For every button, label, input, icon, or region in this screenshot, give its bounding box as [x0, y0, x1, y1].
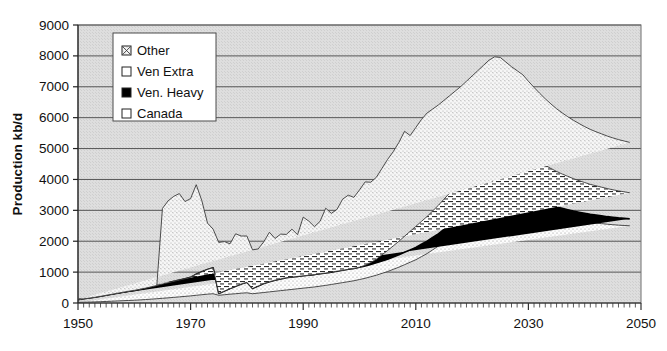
x-tick-label: 1950: [63, 316, 93, 331]
x-tick-label: 1970: [176, 316, 206, 331]
x-tick-label: 2050: [626, 316, 656, 331]
stacked-area-chart: 0100020003000400050006000700080009000 19…: [0, 0, 667, 351]
x-tick-label: 2010: [401, 316, 431, 331]
legend-label-ven-extra: Ven Extra: [137, 64, 194, 79]
chart-container: 0100020003000400050006000700080009000 19…: [0, 0, 667, 351]
y-tick-label: 0: [61, 296, 69, 311]
y-tick-label: 8000: [39, 48, 69, 63]
y-tick-label: 7000: [39, 79, 69, 94]
y-tick-label: 6000: [39, 110, 69, 125]
y-tick-label: 1000: [39, 265, 69, 280]
legend-swatch-canada: [122, 109, 131, 118]
x-tick-label: 1990: [288, 316, 318, 331]
x-axis: 195019701990201020302050: [63, 303, 656, 331]
y-tick-label: 5000: [39, 141, 69, 156]
y-axis: 0100020003000400050006000700080009000: [39, 18, 78, 311]
y-tick-label: 9000: [39, 18, 69, 33]
legend-swatch-ven-extra: [122, 67, 131, 76]
legend-label-ven-heavy: Ven. Heavy: [137, 85, 204, 100]
legend-swatch-ven-heavy: [122, 88, 131, 97]
y-tick-label: 4000: [39, 172, 69, 187]
chart-legend: OtherVen ExtraVen. HeavyCanada: [113, 33, 216, 121]
y-axis-title-label: Production kb/d: [10, 113, 25, 216]
legend-label-canada: Canada: [137, 106, 183, 121]
legend-label-other: Other: [137, 43, 170, 58]
y-tick-label: 2000: [39, 234, 69, 249]
x-tick-label: 2030: [513, 316, 543, 331]
y-axis-title: Production kb/d: [10, 113, 25, 216]
y-tick-label: 3000: [39, 203, 69, 218]
